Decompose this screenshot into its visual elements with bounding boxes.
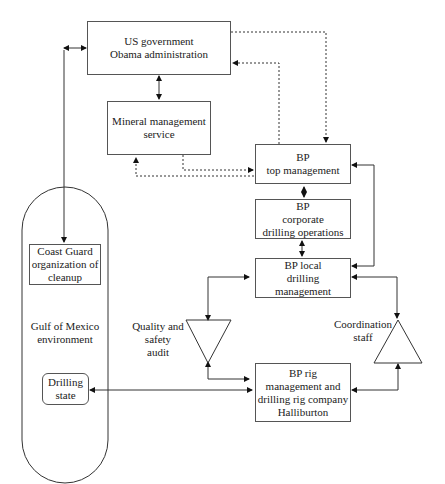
mineral-management-box: Mineral management service — [107, 101, 211, 155]
quality-audit-triangle — [186, 320, 231, 363]
bp-local-drilling-box: BP local drilling management — [255, 258, 351, 298]
drilling-state-box: Drilling state — [42, 373, 89, 405]
coordination-staff-label: Coordination staff — [330, 318, 396, 344]
us-government-box: US government Obama administration — [87, 21, 231, 75]
bp-top-management-box: BP top management — [255, 144, 351, 184]
bp-rig-management-box: BP rig management and drilling rig compa… — [255, 363, 351, 422]
quality-audit-label: Quality and safety audit — [128, 320, 188, 359]
coast-guard-box: Coast Guard organization of cleanup — [29, 244, 101, 285]
bp-corporate-drilling-box: BP corporate drilling operations — [255, 199, 351, 239]
gulf-environment-label: Gulf of Mexico environment — [24, 320, 106, 346]
